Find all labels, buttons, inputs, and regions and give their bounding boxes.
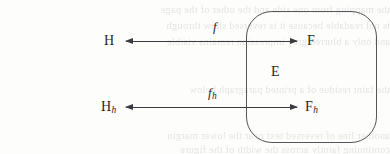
region-label-e: E bbox=[271, 65, 280, 79]
region-boundary-box-e bbox=[246, 11, 377, 143]
arrow-f-head-left bbox=[125, 38, 133, 44]
arrow-f-h-head-right bbox=[290, 104, 298, 110]
node-label-f-sub-h-base: F bbox=[305, 99, 313, 114]
bleed-line: continuing faintly across the width of t… bbox=[0, 142, 390, 154]
node-label-h-sub-h-subscript: h bbox=[111, 105, 116, 115]
arrow-f-head-right bbox=[290, 38, 298, 44]
node-label-f-sub-h-subscript: h bbox=[313, 105, 318, 115]
map-label-f-h: fh bbox=[208, 86, 217, 102]
map-label-f-h-subscript: h bbox=[212, 91, 217, 101]
node-label-f-sub-h: Fh bbox=[305, 100, 318, 116]
arrow-f-line bbox=[126, 41, 297, 42]
node-label-f-base: F bbox=[307, 33, 315, 48]
node-label-h-sub-h: Hh bbox=[101, 100, 116, 116]
region-label-e-base: E bbox=[271, 64, 280, 79]
arrow-f bbox=[126, 41, 297, 43]
map-label-f-base: f bbox=[213, 19, 217, 34]
node-label-f: F bbox=[307, 34, 315, 48]
node-label-h-sub-h-base: H bbox=[101, 99, 111, 114]
arrow-f-h-head-left bbox=[125, 104, 133, 110]
map-label-f: f bbox=[213, 20, 217, 33]
arrow-f-h-line bbox=[126, 107, 297, 108]
node-label-h: H bbox=[104, 34, 114, 48]
arrow-f-h bbox=[126, 107, 297, 109]
commutative-diagram-figure: the mapping from one side and the other … bbox=[0, 0, 390, 154]
node-label-h-base: H bbox=[104, 33, 114, 48]
